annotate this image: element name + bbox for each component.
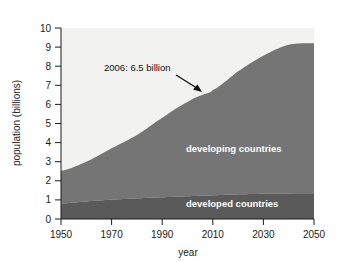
y-tick-label: 9 xyxy=(45,42,51,53)
x-tick-label: 2050 xyxy=(303,229,326,240)
population-area-chart: 012345678910 195019701990201020302050 po… xyxy=(0,0,342,262)
y-tick-label: 6 xyxy=(45,99,51,110)
y-tick-label: 4 xyxy=(45,137,51,148)
chart-canvas: 012345678910 195019701990201020302050 po… xyxy=(0,0,342,262)
series-label-developed: developed countries xyxy=(186,198,278,209)
y-tick-label: 10 xyxy=(40,23,52,34)
x-tick-label: 2030 xyxy=(252,229,275,240)
x-tick-label: 2010 xyxy=(202,229,225,240)
series-label-developing: developing countries xyxy=(186,143,282,154)
y-tick-label: 2 xyxy=(45,175,51,186)
y-tick-label: 5 xyxy=(45,118,51,129)
y-tick-label: 8 xyxy=(45,61,51,72)
x-tick-label: 1970 xyxy=(100,229,123,240)
annotation-label: 2006: 6.5 billion xyxy=(104,62,171,73)
x-tick-label: 1990 xyxy=(151,229,174,240)
x-axis-ticks: 195019701990201020302050 xyxy=(50,219,326,240)
y-tick-label: 3 xyxy=(45,156,51,167)
x-tick-label: 1950 xyxy=(50,229,73,240)
x-axis-title: year xyxy=(178,247,198,258)
y-axis-ticks: 012345678910 xyxy=(40,23,61,225)
y-tick-label: 7 xyxy=(45,80,51,91)
y-axis-title: population (billions) xyxy=(11,80,22,166)
y-tick-label: 1 xyxy=(45,194,51,205)
y-tick-label: 0 xyxy=(45,214,51,225)
